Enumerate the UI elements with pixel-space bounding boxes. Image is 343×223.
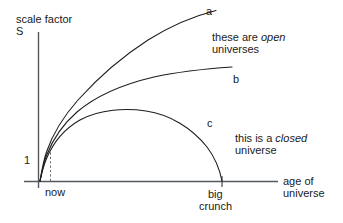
annotation-open-emphasis: open <box>261 31 285 43</box>
curve-b <box>40 67 232 181</box>
cosmology-expansion-figure: scale factor S 1 now big crunch age of u… <box>0 0 343 223</box>
annotation-open-line1-prefix: these are <box>212 31 261 43</box>
y-axis-title-line2: S <box>16 25 23 38</box>
y-tick-label-1: 1 <box>24 154 30 167</box>
annotation-open-line2: universes <box>212 43 259 56</box>
y-axis-title-line1: scale factor <box>16 13 72 26</box>
curve-label-b: b <box>233 73 239 86</box>
x-tick-label-big-crunch-line2: crunch <box>199 200 232 213</box>
annotation-open-line1: these are open <box>212 31 285 44</box>
x-tick-label-big-crunch-line1: big <box>208 188 223 201</box>
curve-a <box>40 11 216 182</box>
curve-label-a: a <box>206 5 212 18</box>
annotation-closed-emphasis: closed <box>275 132 307 144</box>
annotation-closed-line1: this is a closed <box>235 132 307 145</box>
x-axis-title-line2: universe <box>283 187 325 200</box>
curve-label-c: c <box>207 117 213 130</box>
x-axis-title-line1: age of <box>283 175 314 188</box>
x-tick-label-now: now <box>45 186 65 199</box>
curve-c <box>40 110 222 181</box>
annotation-closed-line2: universe <box>235 144 277 157</box>
annotation-closed-line1-prefix: this is a <box>235 132 275 144</box>
